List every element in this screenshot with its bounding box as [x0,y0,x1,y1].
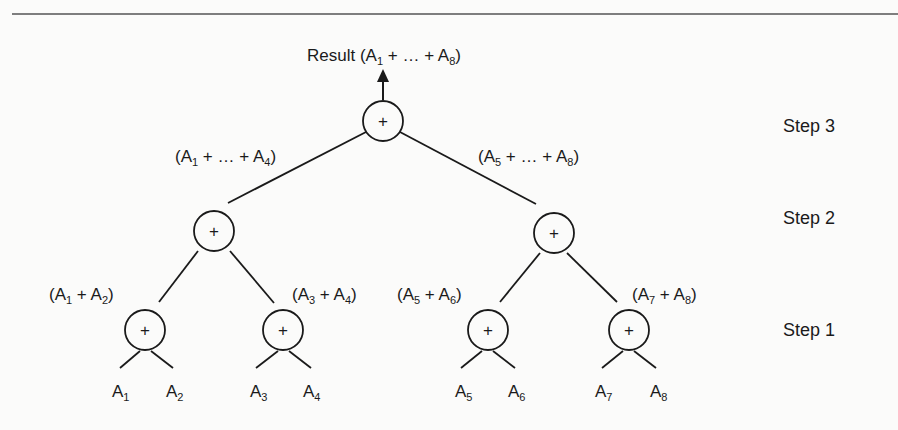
leaf-operands: A1 A2 A3 A4 A5 A6 A7 A8 [112,382,667,403]
partial-sum-label-a7-a8: (A7 + A8) [632,285,697,306]
svg-text:+: + [483,321,493,340]
partial-sum-label-a3-a4: (A3 + A4) [292,285,357,306]
svg-text:+: + [549,224,559,243]
leaf-a4: A4 [303,382,320,403]
partial-sum-label-a1-a4: (A1 + … + A4) [175,147,276,168]
partial-sum-label-a5-a8: (A5 + … + A8) [478,147,579,168]
leaf-a2: A2 [166,382,183,403]
svg-text:+: + [209,222,219,241]
step-label-3: Step 3 [783,116,835,136]
step-label-1: Step 1 [783,320,835,340]
adder-node-l1-4: + [609,310,649,350]
leaf-a7: A7 [595,382,612,403]
adder-node-l2-right: + [534,213,574,253]
tree-edges [120,132,656,368]
result-label: Result (A1 + … + A8) [307,46,461,67]
reduction-tree-diagram: Result (A1 + … + A8) + + + + [0,0,898,430]
partial-sum-label-a5-a6: (A5 + A6) [397,285,462,306]
leaf-a1: A1 [112,382,129,403]
svg-text:+: + [140,321,150,340]
adder-node-root: + [363,101,403,141]
svg-text:+: + [278,321,288,340]
result-arrow-icon [377,69,389,100]
adder-node-l1-3: + [468,310,508,350]
leaf-a3: A3 [250,382,267,403]
step-label-2: Step 2 [783,208,835,228]
svg-text:+: + [624,321,634,340]
adder-node-l1-1: + [125,310,165,350]
partial-sum-label-a1-a2: (A1 + A2) [49,285,114,306]
adder-node-l2-left: + [194,211,234,251]
adder-node-l1-2: + [263,310,303,350]
leaf-a6: A6 [508,382,525,403]
svg-text:+: + [378,112,388,131]
leaf-a8: A8 [650,382,667,403]
leaf-a5: A5 [455,382,472,403]
